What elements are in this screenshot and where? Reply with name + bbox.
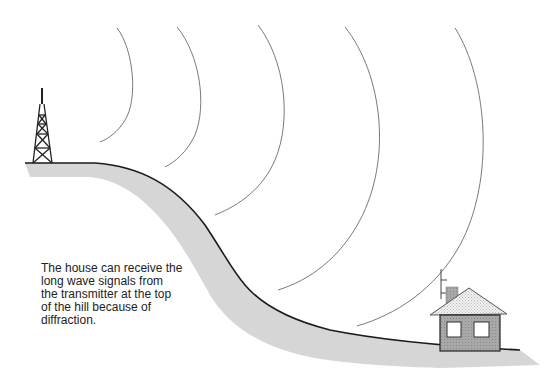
- wavefront-4: [278, 27, 380, 290]
- roof: [430, 288, 507, 315]
- wavefront-3: [215, 25, 284, 215]
- house-with-antenna: [430, 269, 507, 351]
- caption-text: The house can receive the long wave sign…: [41, 262, 201, 327]
- window-right: [474, 322, 489, 337]
- window-left: [447, 322, 461, 337]
- transmitter-tower: [33, 88, 52, 163]
- wavefront-1: [100, 28, 133, 142]
- caption-line: diffraction.: [41, 314, 201, 327]
- wavefront-2: [165, 27, 201, 167]
